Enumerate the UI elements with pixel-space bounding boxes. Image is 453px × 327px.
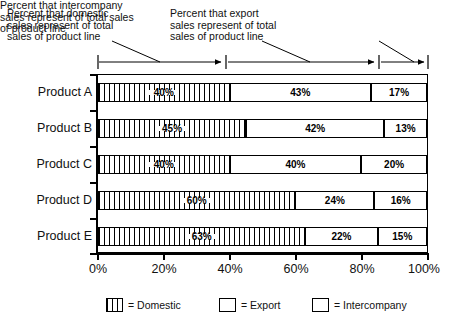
bar-value-label: 16% xyxy=(389,195,413,206)
y-axis-tick xyxy=(90,146,97,148)
bar-segment-intercompany[interactable]: 20% xyxy=(361,155,427,174)
legend-label-domestic: = Domestic xyxy=(128,299,181,311)
bar-value-label: 17% xyxy=(387,87,411,98)
legend-label-export: = Export xyxy=(241,299,280,311)
bar-value-label: 13% xyxy=(394,123,418,134)
bar-segment-domestic[interactable]: 60% xyxy=(98,191,295,210)
x-axis-tick xyxy=(229,253,231,260)
bar-row-product-c: 40% 40% 20% xyxy=(98,155,427,174)
x-axis-label-20: 20% xyxy=(151,262,176,276)
bar-segment-export[interactable]: 42% xyxy=(246,119,384,138)
bar-segment-intercompany[interactable]: 16% xyxy=(374,191,427,210)
bar-value-label: 40% xyxy=(152,87,176,98)
bar-row-product-e: 63% 22% 15% xyxy=(98,227,427,246)
x-axis-tick xyxy=(361,253,363,260)
legend-swatch-domestic-icon xyxy=(106,298,123,312)
bar-segment-intercompany[interactable]: 17% xyxy=(371,83,427,102)
bar-value-label: 42% xyxy=(303,123,327,134)
legend-label-intercompany: = Intercompany xyxy=(334,299,407,311)
bar-row-product-b: 45% 42% 13% xyxy=(98,119,427,138)
bar-value-label: 60% xyxy=(185,195,209,206)
category-label-product-a: Product A xyxy=(18,85,92,99)
x-axis-tick xyxy=(97,253,99,260)
bar-value-label: 40% xyxy=(283,159,307,170)
bar-value-label: 15% xyxy=(390,231,414,242)
bar-value-label: 20% xyxy=(382,159,406,170)
bar-value-label: 45% xyxy=(160,123,184,134)
x-axis-label-40: 40% xyxy=(217,262,242,276)
legend: = Domestic = Export = Intercompany xyxy=(0,296,453,320)
bar-segment-domestic[interactable]: 45% xyxy=(98,119,246,138)
bar-segment-domestic[interactable]: 40% xyxy=(98,83,230,102)
legend-item-export[interactable]: = Export xyxy=(219,298,280,312)
bar-row-product-d: 60% 24% 16% xyxy=(98,191,427,210)
bar-segment-export[interactable]: 40% xyxy=(230,155,362,174)
x-axis-label-100: 100% xyxy=(408,262,440,276)
x-axis-line xyxy=(96,253,429,255)
legend-swatch-intercompany-icon xyxy=(312,298,329,312)
legend-item-intercompany[interactable]: = Intercompany xyxy=(312,298,407,312)
x-axis-tick xyxy=(295,253,297,260)
category-label-product-d: Product D xyxy=(18,193,92,207)
bar-segment-intercompany[interactable]: 15% xyxy=(378,227,427,246)
bar-segment-export[interactable]: 43% xyxy=(230,83,371,102)
bar-row-product-a: 40% 43% 17% xyxy=(98,83,427,102)
bar-segment-domestic[interactable]: 63% xyxy=(98,227,305,246)
bar-value-label: 40% xyxy=(152,159,176,170)
y-axis-tick xyxy=(90,182,97,184)
legend-swatch-export-icon xyxy=(219,298,236,312)
category-label-product-e: Product E xyxy=(18,229,92,243)
y-axis-tick xyxy=(90,218,97,220)
bar-value-label: 63% xyxy=(190,231,214,242)
x-axis-label-80: 80% xyxy=(349,262,374,276)
category-label-product-c: Product C xyxy=(18,157,92,171)
bar-segment-domestic[interactable]: 40% xyxy=(98,155,230,174)
bar-segment-intercompany[interactable]: 13% xyxy=(384,119,427,138)
legend-item-domestic[interactable]: = Domestic xyxy=(106,298,181,312)
x-axis-tick xyxy=(163,253,165,260)
y-axis-tick xyxy=(90,110,97,112)
bar-value-label: 22% xyxy=(329,231,353,242)
bar-value-label: 43% xyxy=(288,87,312,98)
x-axis-label-0: 0% xyxy=(89,262,107,276)
bar-value-label: 24% xyxy=(323,195,347,206)
bar-segment-export[interactable]: 24% xyxy=(295,191,374,210)
span-arrow-band xyxy=(0,50,453,74)
x-axis-tick xyxy=(427,253,429,260)
plot-area: 40% 43% 17% 45% 42% 13% 40% xyxy=(97,74,428,253)
x-axis-label-60: 60% xyxy=(283,262,308,276)
y-axis-tick xyxy=(90,74,97,76)
category-label-product-b: Product B xyxy=(18,121,92,135)
chart-figure: Percent that domestic sales represent of… xyxy=(0,0,453,327)
bar-segment-export[interactable]: 22% xyxy=(305,227,377,246)
